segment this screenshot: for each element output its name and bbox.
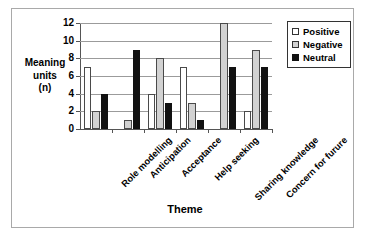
bar-group (208, 23, 240, 129)
chart-figure: Meaning units (n) 024681012 Role modelli… (0, 0, 368, 241)
legend-item: Positive (292, 25, 347, 38)
x-tick-mark (176, 129, 177, 133)
legend-item: Negative (292, 38, 347, 51)
legend-swatch-positive (292, 28, 299, 35)
bar-group (240, 23, 272, 129)
y-tick-label: 12 (52, 18, 74, 28)
bar-neutral (261, 67, 269, 129)
y-tick-label: 10 (52, 36, 74, 46)
legend-swatch-neutral (292, 54, 299, 61)
legend-label: Positive (303, 27, 339, 37)
bar-group (112, 23, 144, 129)
bar-negative (220, 23, 228, 129)
bar-negative (124, 120, 132, 129)
bar-positive (180, 67, 188, 129)
legend-label: Negative (303, 40, 343, 50)
x-tick-mark (112, 129, 113, 133)
bar-group (144, 23, 176, 129)
y-tick-mark (76, 129, 80, 130)
chart-legend: PositiveNegativeNeutral (287, 21, 351, 68)
x-tick-mark (208, 129, 209, 133)
x-tick-mark (240, 129, 241, 133)
bar-group (80, 23, 112, 129)
bar-neutral (133, 50, 141, 130)
bar-positive (148, 94, 156, 129)
bar-positive (84, 67, 92, 129)
y-tick-label: 6 (52, 71, 74, 81)
bar-neutral (197, 120, 205, 129)
bar-neutral (229, 67, 237, 129)
y-tick-label: 0 (52, 124, 74, 134)
legend-label: Neutral (303, 53, 336, 63)
bar-positive (244, 111, 252, 129)
bar-group (176, 23, 208, 129)
bar-negative (252, 50, 260, 130)
y-tick-label: 8 (52, 53, 74, 63)
bar-negative (188, 103, 196, 130)
bar-neutral (101, 94, 109, 129)
bar-neutral (165, 103, 173, 130)
bar-negative (92, 111, 100, 129)
x-tick-mark (272, 129, 273, 133)
y-tick-label: 4 (52, 89, 74, 99)
x-axis-title: Theme (130, 203, 240, 215)
legend-swatch-negative (292, 41, 299, 48)
bar-negative (156, 58, 164, 129)
plot-area (80, 23, 272, 129)
y-tick-label: 2 (52, 106, 74, 116)
legend-item: Neutral (292, 51, 347, 64)
x-tick-mark (144, 129, 145, 133)
